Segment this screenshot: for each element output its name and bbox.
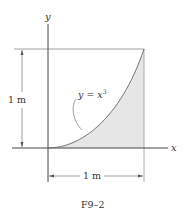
figure-caption: F9–2 xyxy=(81,199,104,210)
horizontal-dimension-label: 1 m xyxy=(83,170,101,181)
arrow-left-icon xyxy=(49,175,54,178)
curve-label-leader xyxy=(73,99,82,130)
x-axis-label: x xyxy=(171,142,177,153)
curve-label-exponent: 3 xyxy=(103,88,107,95)
arrow-down-icon xyxy=(21,142,24,147)
arrow-up-icon xyxy=(21,50,24,55)
y-axis-label: y xyxy=(44,11,51,22)
vertical-dimension-label: 1 m xyxy=(8,94,26,105)
arrow-right-icon xyxy=(138,175,143,178)
curve-label-text: y = x xyxy=(77,89,103,100)
figure-canvas: y x y = x3 1 m 1 m F9–2 xyxy=(0,0,186,220)
curve-label: y = x3 xyxy=(77,88,107,100)
